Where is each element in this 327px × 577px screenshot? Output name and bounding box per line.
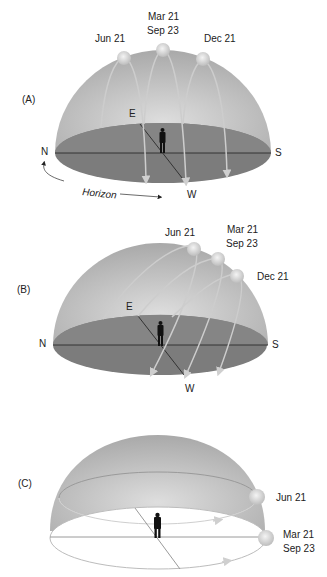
horizon-arrow-right bbox=[120, 194, 160, 197]
direction-east: E bbox=[126, 301, 133, 312]
sun-label-jun21: Jun 21 bbox=[276, 492, 306, 503]
sun-label-dec21: Dec 21 bbox=[204, 33, 236, 44]
direction-west: W bbox=[185, 383, 195, 394]
sun-jun21 bbox=[117, 51, 131, 65]
direction-south: S bbox=[272, 339, 279, 350]
panel-a: (A) Jun 21 Mar 21 Sep 23 Dec 21 N S E W … bbox=[22, 11, 282, 201]
horizon-label: Horizon bbox=[82, 186, 118, 201]
direction-north: N bbox=[41, 146, 48, 157]
sun-label-dec21: Dec 21 bbox=[257, 271, 289, 282]
panel-label: (B) bbox=[17, 284, 30, 295]
panel-c: (C) Jun 21 Mar 21 Sep 23 bbox=[18, 435, 315, 569]
panel-label: (A) bbox=[22, 94, 35, 105]
sun-equinox bbox=[258, 530, 274, 546]
sun-label-jun21: Jun 21 bbox=[95, 33, 125, 44]
sun-path-diagram: (A) Jun 21 Mar 21 Sep 23 Dec 21 N S E W … bbox=[0, 0, 327, 577]
sun-equinox bbox=[156, 43, 170, 57]
direction-east: E bbox=[129, 108, 136, 119]
sun-label-jun21: Jun 21 bbox=[165, 227, 195, 238]
sun-jun21 bbox=[249, 489, 265, 505]
sun-label-equinox-2: Sep 23 bbox=[226, 238, 258, 249]
direction-north: N bbox=[39, 338, 46, 349]
sun-label-equinox-2: Sep 23 bbox=[147, 25, 179, 36]
sun-label-equinox-1: Mar 21 bbox=[148, 11, 180, 22]
panel-b: (B) Jun 21 Mar 21 Sep 23 Dec 21 N S E W bbox=[17, 224, 289, 394]
sun-equinox bbox=[211, 252, 225, 266]
sun-jun21 bbox=[187, 242, 201, 256]
direction-south: S bbox=[275, 147, 282, 158]
sun-label-equinox-2: Sep 23 bbox=[283, 543, 315, 554]
sun-dec21 bbox=[230, 269, 244, 283]
horizon-arrow-left bbox=[44, 163, 64, 181]
sun-label-equinox-1: Mar 21 bbox=[227, 224, 259, 235]
sun-label-equinox-1: Mar 21 bbox=[283, 529, 315, 540]
sun-dec21 bbox=[196, 52, 210, 66]
panel-label: (C) bbox=[18, 478, 32, 489]
direction-west: W bbox=[187, 189, 197, 200]
